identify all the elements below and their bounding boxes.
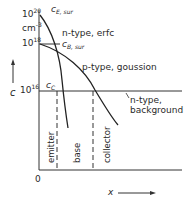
tick-label-1e18: 1018: [22, 39, 41, 48]
tick-label-1e20: 1020: [22, 10, 41, 19]
n-type-background-label-1: n-type,: [130, 96, 162, 105]
n-type-erfc-label: n-type, erfc: [62, 29, 114, 38]
y-axis-label: c: [10, 88, 16, 98]
p-type-gaussian-label: p-type, goussion: [82, 63, 157, 72]
c-c-label: cC: [46, 81, 55, 90]
y-unit-label: cm-3: [22, 24, 42, 33]
c-e-sur-label: cE, sur: [51, 5, 73, 14]
background-leader: [126, 93, 129, 98]
region-emitter-label: emitter: [46, 132, 56, 163]
tick-label-1e16: 1016: [20, 86, 39, 95]
x-axis-label: x: [108, 188, 113, 197]
x-origin-label: 0: [35, 175, 41, 184]
x-arrow-head-icon: [150, 191, 156, 195]
region-base-label: base: [72, 143, 82, 163]
y-arrow-head-icon: [11, 59, 15, 65]
n-type-background-label-2: background: [130, 106, 183, 115]
region-collector-label: collector: [102, 126, 112, 163]
c-b-sur-label: cB, sur: [62, 40, 84, 49]
